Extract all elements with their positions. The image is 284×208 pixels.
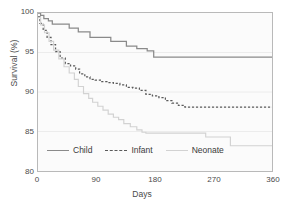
y-tick-90: 90 <box>10 88 34 96</box>
y-tick-95: 95 <box>10 48 34 56</box>
legend-item-neonate: Neonate <box>166 145 224 155</box>
x-axis-tick-labels: 0 90 180 270 360 <box>0 176 284 190</box>
legend-line-child-icon <box>47 147 69 154</box>
series-line-neonate <box>38 18 272 146</box>
x-tick-270: 270 <box>199 176 229 184</box>
legend-label-child: Child <box>73 145 92 155</box>
legend-line-neonate-icon <box>166 147 188 154</box>
y-tick-80: 80 <box>10 168 34 176</box>
legend-item-infant: Infant <box>105 145 152 155</box>
x-axis-label: Days <box>0 189 284 199</box>
legend-label-neonate: Neonate <box>192 145 224 155</box>
series-layer <box>38 13 272 146</box>
legend-item-child: Child <box>47 145 92 155</box>
y-tick-100: 100 <box>10 8 34 16</box>
x-tick-0: 0 <box>22 176 52 184</box>
gridlines <box>38 53 272 132</box>
y-tick-85: 85 <box>10 128 34 136</box>
x-tick-360: 360 <box>258 176 284 184</box>
survival-chart-figure: Survival (%) 100 95 90 85 80 Child Infan… <box>0 0 284 208</box>
series-line-infant <box>38 17 272 107</box>
legend-line-infant-icon <box>105 147 127 154</box>
legend-label-infant: Infant <box>131 145 152 155</box>
x-tick-180: 180 <box>140 176 170 184</box>
series-line-child <box>38 13 272 57</box>
chart-legend: Child Infant Neonate <box>47 145 224 155</box>
x-tick-90: 90 <box>81 176 111 184</box>
